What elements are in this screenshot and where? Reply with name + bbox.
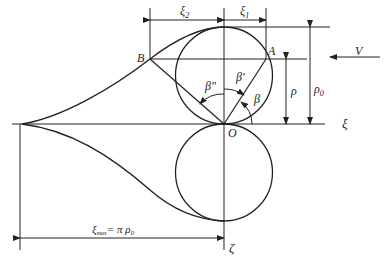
label-rho: ρ xyxy=(290,84,297,98)
label-xi-max: ξmax= π ρ0 xyxy=(92,223,134,237)
label-zeta: ζ xyxy=(229,240,235,255)
label-beta-dprime: β" xyxy=(204,79,217,93)
diagram: B A O V ξ ζ ρ ρ0 ξ1 ξ2 β β' β" ξmax= π ρ… xyxy=(0,0,387,266)
label-beta-prime: β' xyxy=(235,70,245,84)
upper-curve xyxy=(22,27,224,124)
label-xi2: ξ2 xyxy=(180,4,189,20)
label-V: V xyxy=(355,44,364,58)
label-rho0: ρ0 xyxy=(313,82,324,98)
label-A: A xyxy=(267,44,276,58)
beta-prime-arc xyxy=(224,89,244,95)
diagram-canvas: B A O V ξ ζ ρ ρ0 ξ1 ξ2 β β' β" ξmax= π ρ… xyxy=(0,0,387,266)
label-xi: ξ xyxy=(342,116,348,131)
label-beta: β xyxy=(253,92,260,106)
beta-dprime-arc xyxy=(200,94,224,104)
label-O: O xyxy=(228,126,237,140)
lower-curve xyxy=(22,124,224,221)
label-B: B xyxy=(137,51,145,65)
label-xi1: ξ1 xyxy=(240,4,249,20)
